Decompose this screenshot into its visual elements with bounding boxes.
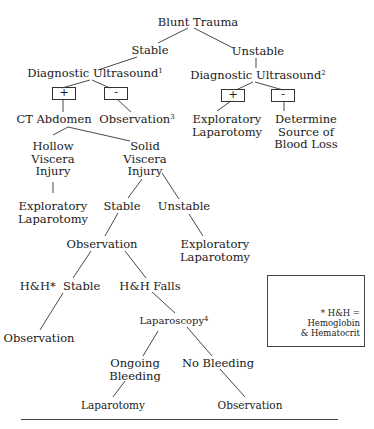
- node-diagnostic-ultrasound-1: Diagnostic Ultrasound1: [27, 67, 163, 80]
- node-unstable-2: Unstable: [158, 200, 210, 213]
- node-hollow-viscera-injury: HollowVisceraInjury: [31, 140, 74, 178]
- legend-box: * H&H = Hemoglobin & Hematocrit: [267, 275, 365, 347]
- node-ongoing-bleeding: OngoingBleeding: [109, 357, 161, 382]
- line: Exploratory: [18, 200, 88, 213]
- edge-solid-stable: [128, 179, 142, 198]
- node-exploratory-laparotomy-2: ExploratoryLaparotomy: [18, 200, 88, 225]
- edge-ongoing-laparotomy: [113, 381, 125, 397]
- node-laparotomy: Laparotomy: [81, 399, 145, 412]
- node-observation: Observation: [67, 238, 138, 251]
- line: Solid: [123, 140, 166, 153]
- legend-line: & Hematocrit: [268, 328, 360, 338]
- line: Laparotomy: [18, 213, 88, 226]
- edge-root-unstable: [194, 28, 233, 48]
- line: Exploratory: [180, 238, 250, 251]
- line: Ongoing: [109, 357, 161, 370]
- node-observation-3: Observation3: [99, 113, 174, 126]
- label: Laparoscopy: [139, 315, 204, 326]
- edge-ct-hollow: [53, 127, 68, 135]
- line: Laparotomy: [180, 251, 250, 264]
- line: Exploratory: [192, 113, 262, 126]
- node-exploratory-laparotomy-1: ExploratoryLaparotomy: [192, 113, 262, 138]
- node-observation-2: Observation: [4, 332, 75, 345]
- line: Determine: [274, 113, 337, 126]
- label: Observation: [99, 112, 170, 126]
- edge-hhstable-observation2: [40, 293, 63, 330]
- footnote-ref: 1: [158, 67, 162, 75]
- edge-root-stable: [158, 28, 188, 43]
- line: Injury: [31, 165, 74, 178]
- node-solid-viscera-injury: SolidVisceraInjury: [123, 140, 166, 178]
- edge-laparoscopy-ongoing: [143, 331, 158, 356]
- edge-pos2-explap: [217, 101, 231, 111]
- node-observation-final: Observation: [218, 399, 283, 412]
- node-negative-2: -: [271, 89, 295, 102]
- edge-stable-observation: [105, 213, 118, 236]
- node-negative-1: -: [104, 87, 128, 100]
- node-positive-1: +: [52, 87, 76, 100]
- line: Injury: [123, 165, 166, 178]
- flowchart-canvas: Blunt Trauma Stable Unstable Diagnostic …: [0, 0, 374, 429]
- edge-nobleed-observation3: [220, 369, 245, 397]
- footnote-ref: 2: [321, 69, 325, 77]
- label: Diagnostic Ultrasound: [27, 66, 158, 80]
- edge-laparoscopy-nobleed: [187, 327, 212, 356]
- legend-line: * H&H = Hemoglobin: [268, 308, 360, 328]
- node-positive-2: +: [221, 89, 245, 102]
- edge-hhfalls-laparoscopy: [152, 292, 175, 313]
- node-hh-falls: H&H Falls: [119, 280, 180, 293]
- node-unstable: Unstable: [232, 45, 284, 58]
- edge-ct-solid: [68, 127, 130, 141]
- line: Bleeding: [109, 370, 161, 383]
- node-exploratory-laparotomy-3: ExploratoryLaparotomy: [180, 238, 250, 263]
- line: Laparotomy: [192, 126, 262, 139]
- node-laparoscopy: Laparoscopy4: [139, 315, 208, 328]
- edge-observation-hhstable: [73, 251, 91, 278]
- label: Diagnostic Ultrasound: [190, 68, 321, 82]
- edge-unstable-explap: [189, 214, 203, 236]
- node-blunt-trauma: Blunt Trauma: [158, 16, 238, 29]
- node-stable: Stable: [131, 44, 168, 57]
- footnote-ref: 4: [204, 315, 208, 323]
- node-hh-stable: H&H* Stable: [20, 280, 101, 293]
- footnote-ref: 3: [170, 113, 174, 121]
- node-stable-2: Stable: [103, 200, 140, 213]
- line: Hollow: [31, 140, 74, 153]
- node-diagnostic-ultrasound-2: Diagnostic Ultrasound2: [190, 69, 326, 82]
- bottom-rule: [21, 419, 338, 420]
- edge-observation-hhfalls: [125, 251, 146, 278]
- node-determine-source: DetermineSource ofBlood Loss: [274, 113, 337, 151]
- node-no-bleeding: No Bleeding: [182, 357, 254, 370]
- edge-neg1-obs3: [118, 100, 131, 112]
- line: Blood Loss: [274, 138, 337, 151]
- legend-text: * H&H = Hemoglobin & Hematocrit: [268, 308, 360, 338]
- node-ct-abdomen: CT Abdomen: [16, 113, 91, 126]
